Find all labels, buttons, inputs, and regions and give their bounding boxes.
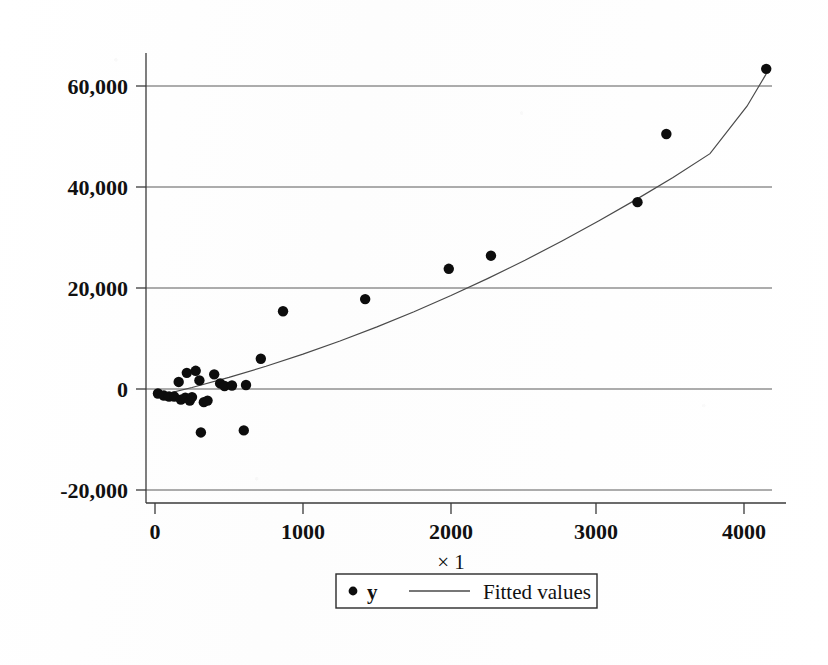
data-point — [360, 294, 370, 304]
data-point — [256, 354, 266, 364]
data-point — [632, 197, 642, 207]
figure-canvas: 60,000 40,000 20,000 0 -20,000 0 1000 20… — [0, 0, 828, 665]
data-point — [444, 264, 454, 274]
scatter-markers — [153, 64, 772, 438]
data-point — [191, 366, 201, 376]
data-point — [173, 377, 183, 387]
legend-label-fitted-values: Fitted values — [483, 580, 591, 604]
data-point — [241, 380, 251, 390]
data-point — [202, 395, 212, 405]
x-axis-title: × 1 — [437, 550, 465, 574]
y-axis: 60,000 40,000 20,000 0 -20,000 — [60, 53, 146, 503]
x-tick-label-3000: 3000 — [574, 519, 618, 544]
legend-label-y: y — [367, 580, 378, 604]
x-axis: 0 1000 2000 3000 4000 × 1 — [146, 503, 786, 574]
data-point — [661, 129, 671, 139]
data-point — [761, 64, 771, 74]
data-point — [182, 368, 192, 378]
y-tick-label-20000: 20,000 — [68, 276, 129, 301]
x-tick-label-4000: 4000 — [722, 519, 766, 544]
y-tick-label-60000: 60,000 — [68, 74, 129, 99]
legend: y Fitted values — [336, 574, 597, 608]
data-point — [194, 375, 204, 385]
data-point — [239, 425, 249, 435]
scatter-plot: 60,000 40,000 20,000 0 -20,000 0 1000 20… — [0, 0, 828, 665]
fitted-values-curve — [155, 74, 766, 397]
data-point — [227, 380, 237, 390]
legend-marker-y-icon — [349, 587, 358, 596]
x-tick-label-2000: 2000 — [429, 519, 473, 544]
data-point — [196, 427, 206, 437]
data-point — [486, 250, 496, 260]
x-tick-label-0: 0 — [150, 519, 161, 544]
y-tick-label-0: 0 — [117, 377, 128, 402]
data-point — [278, 306, 288, 316]
fitted-line-path — [155, 74, 766, 397]
data-point — [187, 392, 197, 402]
data-point — [209, 369, 219, 379]
y-tick-label-neg20000: -20,000 — [60, 478, 128, 503]
x-tick-label-1000: 1000 — [281, 519, 325, 544]
y-tick-label-40000: 40,000 — [68, 175, 129, 200]
